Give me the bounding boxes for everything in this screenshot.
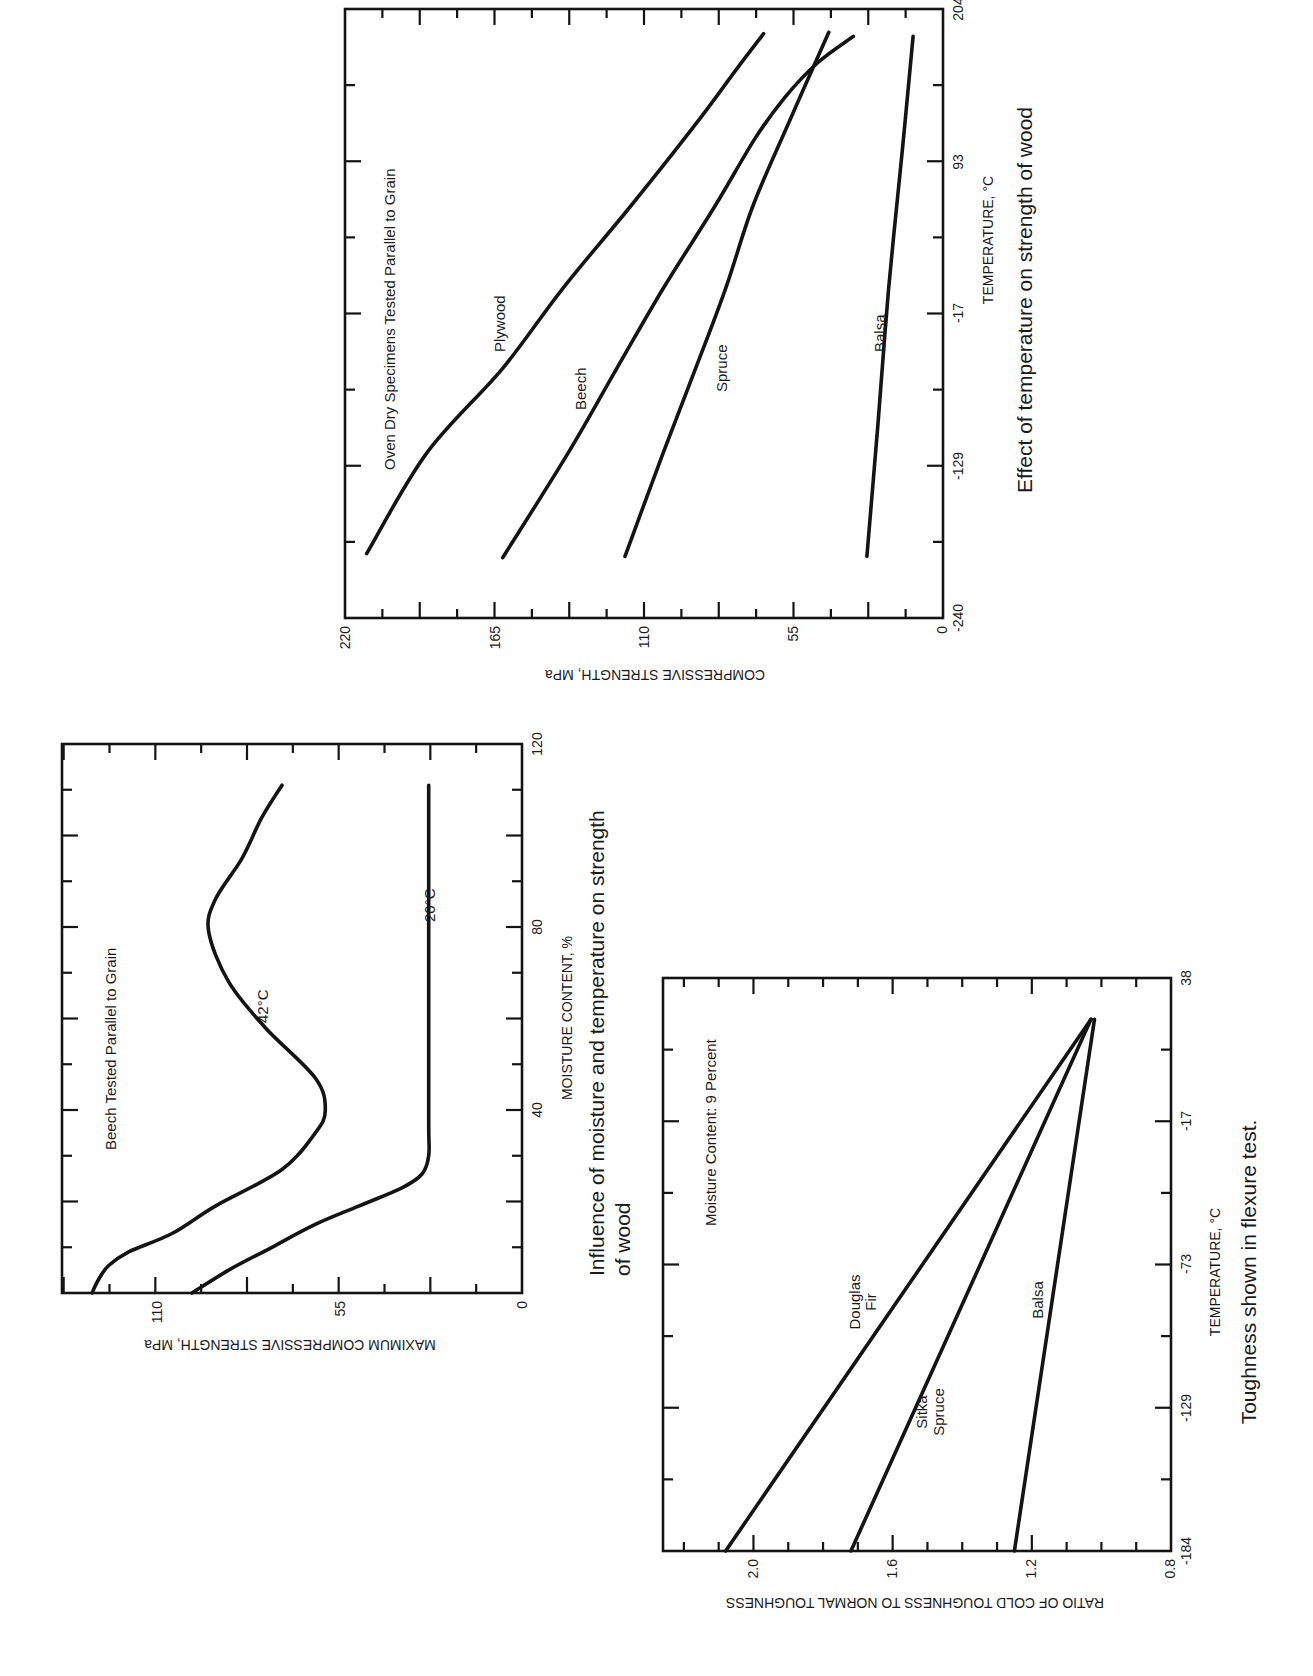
- x-axis-label: MOISTURE CONTENT, %: [559, 936, 575, 1100]
- series-label-sitka-spruce-line2: Spruce: [930, 1388, 947, 1436]
- chart-caption: Toughness shown in flexure test.: [1237, 1120, 1260, 1425]
- axis-ticks: [663, 978, 1171, 1551]
- axis-ticks: [62, 744, 522, 1293]
- data-curves: [367, 32, 913, 557]
- series-line-plywood: [367, 34, 764, 554]
- series-label-balsa: Balsa: [1029, 1281, 1046, 1319]
- x-tick-label: 80: [529, 919, 545, 935]
- x-tick-label: -240: [950, 604, 966, 632]
- x-tick-label: -129: [950, 452, 966, 480]
- x-tick-label: -129: [1178, 1394, 1194, 1422]
- y-tick-label: 110: [149, 1301, 165, 1324]
- series-label-balsa: Balsa: [871, 314, 888, 352]
- series-label-sitka-spruce: Sitka: [913, 1395, 930, 1429]
- y-tick-label: 2.0: [745, 1559, 761, 1579]
- chart-caption: Effect of temperature on strength of woo…: [1013, 107, 1036, 493]
- x-tick-label: -184: [1178, 1537, 1194, 1565]
- y-tick-label: 220: [337, 626, 353, 650]
- series-label-spruce: Spruce: [713, 344, 730, 392]
- y-tick-label: 55: [785, 626, 801, 642]
- chart-moisture-strength: Beech Tested Parallel to Grain -42°C 20°…: [62, 732, 634, 1353]
- y-tick-label: 0: [514, 1301, 530, 1309]
- series-label-minus42c: -42°C: [254, 989, 271, 1028]
- x-tick-label: -17: [950, 303, 966, 323]
- series-line-42-c: [92, 785, 325, 1293]
- chart-annotation: Oven Dry Specimens Tested Parallel to Gr…: [381, 168, 398, 470]
- y-tick-label: 1.2: [1023, 1559, 1039, 1579]
- series-line-balsa: [867, 36, 913, 556]
- y-tick-label: 55: [332, 1301, 348, 1317]
- series-label-beech: Beech: [572, 367, 589, 410]
- plot-frame: [663, 978, 1171, 1551]
- x-tick-label: 40: [529, 1102, 545, 1118]
- y-tick-label: 0.8: [1162, 1559, 1178, 1579]
- x-axis-label: TEMPERATURE, °C: [1207, 1208, 1223, 1336]
- chart-annotation: Moisture Content: 9 Percent: [702, 1038, 719, 1226]
- y-tick-label: 0: [934, 626, 950, 634]
- chart-caption-line2: of wood: [611, 1202, 634, 1276]
- y-axis-label: RATIO OF COLD TOUGHNESS TO NORMAL TOUGHN…: [726, 1595, 1104, 1611]
- y-tick-label: 165: [487, 626, 503, 650]
- series-label-douglas-fir-line2: Fir: [862, 1293, 879, 1311]
- chart-caption-line1: Influence of moisture and temperature on…: [585, 810, 608, 1276]
- series-label-20c: 20°C: [421, 888, 438, 922]
- data-curves: [92, 785, 429, 1293]
- chart-annotation: Beech Tested Parallel to Grain: [102, 948, 119, 1150]
- y-axis-label: COMPRESSIVE STRENGTH, MPa: [545, 667, 765, 683]
- x-axis-label: TEMPERATURE, °C: [980, 176, 996, 304]
- x-tick-label: 93: [950, 154, 966, 170]
- series-line-20-c: [192, 785, 429, 1293]
- x-tick-label: 204: [950, 0, 966, 21]
- x-tick-label: 38: [1178, 970, 1194, 986]
- x-tick-label: 120: [529, 732, 545, 756]
- figure-page: Oven Dry Specimens Tested Parallel to Gr…: [0, 0, 1313, 1676]
- y-tick-label: 110: [636, 626, 652, 649]
- plot-frame: [62, 744, 522, 1293]
- chart-toughness: Moisture Content: 9 Percent Douglas Fir …: [663, 970, 1260, 1611]
- x-tick-label: -73: [1178, 1254, 1194, 1274]
- series-label-douglas-fir: Douglas: [846, 1274, 863, 1329]
- y-tick-label: 1.6: [884, 1559, 900, 1579]
- plot-frame: [345, 9, 943, 618]
- chart-temperature-strength: Oven Dry Specimens Tested Parallel to Gr…: [337, 0, 1036, 683]
- x-tick-label: -17: [1178, 1111, 1194, 1131]
- series-label-plywood: Plywood: [491, 295, 508, 352]
- axis-ticks: [345, 9, 943, 618]
- y-axis-label: MAXIMUM COMPRESSIVE STRENGTH, MPa: [144, 1337, 436, 1353]
- series-line-spruce: [625, 32, 829, 556]
